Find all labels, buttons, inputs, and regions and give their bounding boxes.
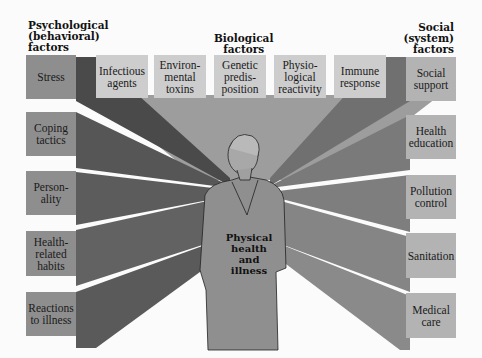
factor-genetic-predisposition: Genetic predis- position: [214, 55, 266, 98]
center-label: Physical health and illness: [216, 232, 282, 276]
factor-pollution-control: Pollution control: [406, 175, 456, 219]
factor-sanitation: Sanitation: [406, 233, 456, 278]
factor-health-related-habits: Health- related habits: [26, 231, 76, 276]
factor-environmental-toxins: Environ- mental toxins: [154, 55, 206, 98]
factor-social-support: Social support: [406, 57, 456, 101]
header-biological: Biological factors: [214, 33, 273, 55]
factor-health-education: Health education: [406, 115, 456, 159]
factor-stress: Stress: [26, 55, 76, 99]
factor-physiological-reactivity: Physio- logical reactivity: [274, 55, 326, 98]
factor-reactions-to-illness: Reactions to illness: [26, 292, 76, 336]
factor-immune-response: Immune response: [334, 55, 386, 98]
factor-medical-care: Medical care: [406, 293, 456, 338]
factor-infectious-agents: Infectious agents: [96, 55, 148, 98]
factor-personality: Person- ality: [26, 171, 76, 215]
header-psychological: Psychological (behavioral) factors: [28, 20, 108, 53]
header-social: Social (system) factors: [400, 22, 454, 55]
diagram: Psychological (behavioral) factors Biolo…: [0, 0, 482, 358]
factor-coping-tactics: Coping tactics: [26, 112, 76, 156]
